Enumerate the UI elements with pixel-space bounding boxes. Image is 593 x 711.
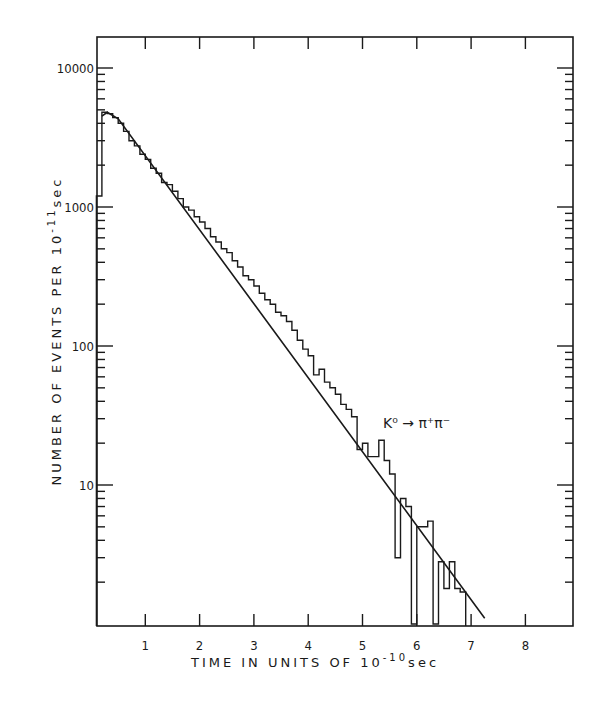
x-tick-label: 6: [413, 638, 420, 653]
y-axis-title: NUMBER OF EVENTS PER 10-11sec: [46, 177, 64, 486]
x-tick-label: 8: [522, 638, 529, 653]
x-tick-label: 2: [196, 638, 203, 653]
histogram-outline: [96, 112, 465, 626]
svg-text:NUMBER OF EVENTS PER 10-11sec: NUMBER OF EVENTS PER 10-11sec: [46, 177, 64, 486]
y-tick-label: 10: [79, 478, 94, 493]
fit-line: [102, 112, 485, 618]
plot-border: [97, 37, 573, 626]
decay-annotation: K⁰ → π⁺π⁻: [383, 415, 450, 431]
plot-frame: [97, 37, 573, 626]
x-tick-label: 4: [304, 638, 311, 653]
y-tick-label: 10000: [57, 61, 94, 76]
decay-histogram-chart: 10100100010000 12345678 NUMBER OF EVENTS…: [0, 0, 593, 711]
x-tick-label: 1: [142, 638, 149, 653]
y-tick-label: 1000: [64, 200, 94, 215]
x-tick-label: 5: [359, 638, 366, 653]
exponential-fit: [102, 112, 485, 618]
x-axis-ticks: 12345678: [142, 37, 530, 653]
y-tick-label: 100: [72, 339, 94, 354]
x-tick-label: 3: [250, 638, 257, 653]
x-tick-label: 7: [467, 638, 474, 653]
y-axis-ticks: 10100100010000: [57, 61, 573, 582]
histogram-bars: [96, 112, 465, 626]
x-axis-title: TIME IN UNITS OF 10-10sec: [190, 652, 439, 670]
